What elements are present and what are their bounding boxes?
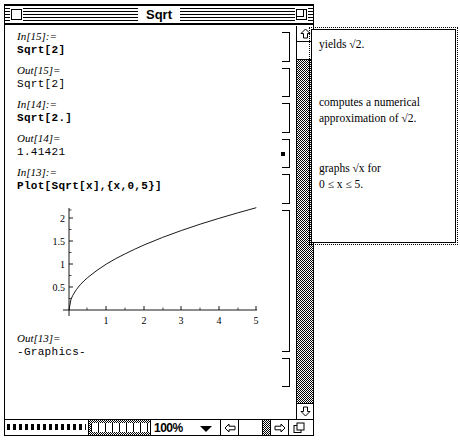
cell-label: Out[15]=	[17, 64, 296, 77]
cell-input-text: Sqrt[2.]	[17, 111, 296, 125]
cell-label: In[13]:=	[17, 166, 296, 179]
cell-in-14[interactable]: In[14]:= Sqrt[2.]	[17, 98, 296, 125]
annotation-line: graphs √x for	[319, 160, 448, 176]
annotation-line: approximation of √2.	[319, 110, 448, 126]
cell-label: Out[14]=	[17, 132, 296, 145]
bottom-grip	[263, 420, 271, 435]
window-body: In[15]:= Sqrt[2] Out[15]= Sqrt[2] In[14]…	[5, 26, 313, 419]
cell-output-text: 1.41421	[17, 145, 296, 159]
annotation-yields: yields √2.	[319, 36, 448, 52]
cell-output-text: Sqrt[2]	[17, 77, 296, 91]
scroll-down-arrow-icon[interactable]	[297, 403, 313, 419]
cell-input-text: Sqrt[2]	[17, 43, 296, 57]
annotation-panel: yields √2. computes a numerical approxim…	[311, 29, 456, 243]
plot-graphic[interactable]: 1 2 3 4 5 0.5 1 1.5 2	[17, 200, 263, 328]
overlapping-windows-icon	[293, 422, 305, 434]
window-titlebar[interactable]: Sqrt	[5, 5, 313, 25]
zoom-box-icon[interactable]	[296, 9, 307, 20]
x-ticks	[106, 306, 256, 310]
annotation-spacer	[319, 126, 448, 160]
cell-bracket-in-15[interactable]	[282, 32, 290, 62]
svg-text:1: 1	[104, 315, 109, 326]
svg-text:1.5: 1.5	[53, 236, 66, 247]
cell-label: In[15]:=	[17, 30, 296, 43]
horizontal-scrollbar[interactable]	[5, 420, 151, 435]
horizontal-scroll-thumb[interactable]	[5, 420, 89, 435]
cell-label: In[14]:=	[17, 98, 296, 111]
cell-in-13[interactable]: In[13]:= Plot[Sqrt[x],{x,0,5}]	[17, 166, 296, 193]
windows-button[interactable]	[289, 420, 308, 435]
next-cell-button[interactable]	[271, 420, 289, 435]
annotation-spacer	[319, 52, 448, 94]
cell-bracket-graphic[interactable]	[282, 210, 290, 352]
cell-input-text: Plot[Sqrt[x],{x,0,5}]	[17, 179, 296, 193]
annotation-line: 0 ≤ x ≤ 5.	[319, 176, 448, 192]
cell-bracket-in-13[interactable]	[282, 174, 290, 204]
annotation-line: yields √2.	[319, 36, 448, 52]
annotation-line: computes a numerical	[319, 94, 448, 110]
horizontal-scroll-ticks	[91, 423, 150, 432]
cell-out-13[interactable]: Out[13]= -Graphics-	[17, 332, 296, 359]
status-blank-area	[239, 420, 263, 435]
cell-output-text: -Graphics-	[17, 345, 296, 359]
notebook-window: Sqrt In[15]:= Sqrt[2] Out[15]= Sqrt[2]	[4, 4, 314, 436]
cell-label: Out[13]=	[17, 332, 296, 345]
svg-text:2: 2	[142, 315, 147, 326]
annotation-graphs: graphs √x for 0 ≤ x ≤ 5.	[319, 160, 448, 192]
svg-text:0.5: 0.5	[53, 282, 66, 293]
x-tick-labels: 1 2 3 4 5	[104, 315, 259, 326]
y-tick-labels: 0.5 1 1.5 2	[53, 213, 66, 293]
chevron-down-icon[interactable]	[200, 426, 212, 432]
svg-text:3: 3	[179, 315, 184, 326]
svg-text:1: 1	[60, 259, 65, 270]
close-box-icon[interactable]	[11, 9, 22, 20]
cell-out-14[interactable]: Out[14]= 1.41421	[17, 132, 296, 159]
screen: Sqrt In[15]:= Sqrt[2] Out[15]= Sqrt[2]	[0, 0, 460, 440]
svg-text:4: 4	[217, 315, 222, 326]
sqrt-curve	[69, 208, 256, 310]
annotation-approximation: computes a numerical approximation of √2…	[319, 94, 448, 126]
cell-bracket-out-14[interactable]	[282, 139, 290, 168]
notebook-canvas[interactable]: In[15]:= Sqrt[2] Out[15]= Sqrt[2] In[14]…	[5, 26, 297, 419]
window-bottom-bar: 100%	[5, 419, 313, 435]
prev-cell-button[interactable]	[221, 420, 239, 435]
zoom-level-dropdown[interactable]: 100%	[151, 420, 221, 435]
svg-text:2: 2	[60, 213, 65, 224]
notebook-cells: In[15]:= Sqrt[2] Out[15]= Sqrt[2] In[14]…	[5, 26, 296, 419]
cell-bracket-out-13[interactable]	[282, 358, 290, 387]
sqrt-plot-svg: 1 2 3 4 5 0.5 1 1.5 2	[17, 200, 263, 328]
window-title: Sqrt	[138, 6, 180, 23]
cell-in-15[interactable]: In[15]:= Sqrt[2]	[17, 30, 296, 57]
arrow-right-icon	[274, 422, 286, 434]
cell-bracket-in-14[interactable]	[282, 103, 290, 133]
cell-bracket-out-15[interactable]	[282, 68, 290, 97]
zoom-level-value: 100%	[154, 421, 183, 435]
cell-out-15[interactable]: Out[15]= Sqrt[2]	[17, 64, 296, 91]
arrow-left-icon	[224, 422, 236, 434]
svg-text:5: 5	[254, 315, 259, 326]
